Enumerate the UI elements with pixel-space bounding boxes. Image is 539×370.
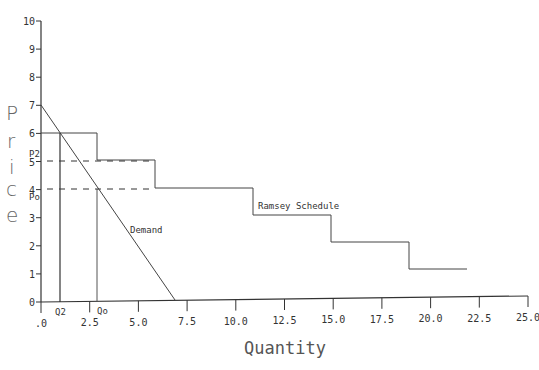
x-tick-label: 25.0 (516, 312, 539, 323)
y-tick-label: 0 (29, 297, 35, 308)
qo-label: Qo (97, 306, 108, 316)
svg-text:e: e (6, 203, 18, 227)
x-tick-label: 12.5 (272, 315, 296, 326)
y-tick-label: 10 (23, 16, 35, 27)
x-tick-label: 15.0 (321, 314, 345, 325)
x-tick-label: 17.5 (370, 314, 394, 325)
y-tick-label: 2 (29, 241, 35, 252)
y-axis-label: P r i c e (6, 101, 18, 227)
ramsey-pricing-chart: P2 Po Q2 Qo Demand Ramsey Schedule P r i… (0, 0, 539, 370)
q2-label: Q2 (55, 307, 66, 317)
demand-label: Demand (130, 225, 163, 235)
y-tick-label: 1 (29, 269, 35, 280)
x-tick-label: 2.5 (81, 317, 99, 328)
y-tick-label: 5 (29, 157, 35, 168)
x-tick-label: 10.0 (224, 316, 248, 327)
ramsey-schedule-line (41, 133, 467, 269)
y-tick-label: 9 (29, 44, 35, 55)
x-tick-labels: .02.55.07.510.012.515.017.520.022.525.0 (35, 312, 539, 329)
x-tick-label: 7.5 (178, 316, 196, 327)
x-tick-label: 5.0 (129, 317, 147, 328)
y-tick-label: 6 (29, 128, 35, 139)
y-tick-label: 7 (29, 100, 35, 111)
x-tick-label: 22.5 (467, 313, 491, 324)
svg-text:c: c (6, 177, 17, 201)
ramsey-schedule-label: Ramsey Schedule (258, 201, 339, 211)
y-tick-labels: 012345678910 (23, 16, 35, 308)
x-tick-label: .0 (35, 318, 47, 329)
x-tick-label: 20.0 (419, 313, 443, 324)
svg-text:i: i (9, 155, 15, 179)
y-tick-label: 3 (29, 213, 35, 224)
demand-line (41, 105, 175, 300)
svg-text:r: r (7, 129, 16, 153)
x-axis-label: Quantity (244, 338, 326, 358)
y-ticks (36, 21, 41, 302)
svg-text:P: P (6, 101, 18, 125)
y-tick-label: 4 (29, 185, 35, 196)
y-tick-label: 8 (29, 72, 35, 83)
